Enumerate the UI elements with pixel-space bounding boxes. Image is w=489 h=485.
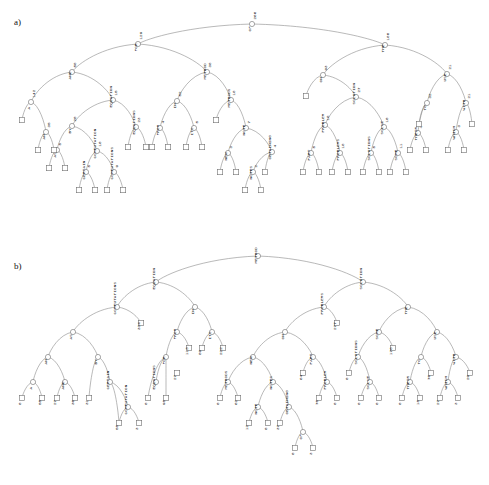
tree-node-with[interactable]: WITH (451, 353, 459, 364)
tree-leaf[interactable] (469, 121, 474, 126)
tree-leaf[interactable] (303, 93, 308, 98)
tree-node-by[interactable]: BY (93, 354, 101, 364)
tree-leaf[interactable]: 27 (435, 395, 443, 405)
tree-node-solution[interactable]: SOLUTION27 (351, 82, 362, 104)
tree-leaf[interactable]: 31 (84, 395, 92, 405)
tree-node-problems[interactable]: PROBLEMS (319, 292, 327, 314)
tree-leaf[interactable]: 27 (172, 370, 180, 380)
tree-node-which[interactable]: WHICH3 (451, 125, 462, 140)
tree-node-some[interactable]: SOME (374, 328, 382, 339)
tree-leaf[interactable]: 36 (70, 395, 78, 405)
tree-leaf[interactable] (51, 147, 56, 152)
tree-node-use[interactable]: USE (432, 329, 440, 339)
tree-node-obtaining[interactable]: OBTAINING (284, 390, 292, 415)
tree-leaf[interactable] (387, 169, 392, 174)
tree-node-which[interactable]: WHICH (443, 376, 451, 390)
tree-node-equation[interactable]: EQUATION15 (108, 85, 119, 107)
tree-node-equations[interactable]: EQUATIONS (151, 365, 159, 390)
tree-leaf[interactable] (242, 187, 247, 192)
tree-leaf[interactable] (199, 144, 204, 149)
tree-node-method[interactable]: METHOD38 (202, 62, 213, 80)
tree-node-the[interactable]: THE (403, 304, 411, 314)
tree-leaf[interactable]: 0 (374, 395, 382, 405)
tree-leaf[interactable] (217, 169, 222, 174)
tree-node-new[interactable]: NEW (248, 354, 256, 364)
tree-node-problem[interactable]: PROBLEM18 (320, 113, 331, 132)
tree-node-certain[interactable]: CERTAIN (105, 370, 113, 389)
tree-leaf[interactable]: 64 (298, 370, 306, 380)
tree-node-notes[interactable]: NOTES (268, 376, 276, 390)
tree-node-part[interactable]: PART5 (306, 146, 317, 161)
tree-leaf[interactable]: 76 (426, 370, 434, 380)
tree-node-note[interactable]: NOTE7 (241, 121, 252, 136)
tree-leaf[interactable] (403, 169, 408, 174)
tree-leaf[interactable] (183, 144, 188, 149)
tree-node-as[interactable]: AS (68, 329, 76, 339)
tree-leaf[interactable]: 0 (356, 395, 364, 405)
tree-node-on[interactable]: ON93 (318, 65, 329, 83)
tree-node-certain[interactable]: CERTAIN5 (81, 160, 92, 179)
tree-leaf[interactable] (461, 147, 466, 152)
tree-node-its[interactable]: ITS5 (189, 121, 200, 136)
tree-node-in[interactable]: IN (190, 304, 198, 314)
tree-leaf[interactable]: 70 (314, 395, 322, 405)
tree-node-methods[interactable]: METHODS18 (226, 88, 237, 107)
tree-leaf[interactable] (329, 169, 334, 174)
tree-leaf[interactable] (376, 169, 381, 174)
tree-leaf[interactable]: 3 (308, 445, 316, 455)
tree-node-note[interactable]: NOTE (253, 403, 261, 414)
tree-node-for[interactable]: FOR (161, 354, 169, 364)
tree-leaf[interactable]: 0 (17, 395, 25, 405)
tree-node-solve[interactable]: SOLVE (365, 376, 373, 390)
tree-leaf[interactable]: 62 (233, 395, 241, 405)
tree-leaf[interactable]: 0 (290, 445, 298, 455)
tree-leaf[interactable]: 98 (161, 395, 169, 405)
tree-node-obtaining[interactable]: OBTAINING4 (267, 135, 278, 160)
tree-node-solution[interactable]: SOLUTION (358, 267, 366, 289)
tree-leaf[interactable] (76, 187, 81, 192)
tree-leaf[interactable] (407, 147, 412, 152)
tree-node-part[interactable]: PART (308, 353, 316, 364)
tree-leaf[interactable]: 0 (397, 395, 405, 405)
tree-leaf[interactable] (316, 169, 321, 174)
tree-leaf[interactable] (262, 169, 267, 174)
tree-node-their[interactable]: THEIR4 (413, 126, 424, 141)
tree-leaf[interactable] (423, 147, 428, 152)
tree-node-an[interactable]: AN (43, 354, 51, 364)
tree-node-computations[interactable]: COMPUTATIONS (112, 281, 120, 314)
tree-leaf[interactable] (104, 187, 109, 192)
tree-node-an[interactable]: AN35 (41, 122, 52, 140)
tree-leaf[interactable] (143, 144, 148, 149)
tree-node-to[interactable]: TO (416, 354, 424, 364)
tree-leaf[interactable]: 37 (275, 420, 283, 430)
tree-leaf[interactable]: 277 (332, 320, 340, 330)
tree-leaf[interactable]: 12 (244, 420, 252, 430)
tree-leaf[interactable] (46, 165, 51, 170)
tree-leaf[interactable] (125, 144, 130, 149)
tree-leaf[interactable]: 0 (344, 370, 352, 380)
tree-node-equation[interactable]: EQUATION (151, 267, 159, 289)
tree-leaf[interactable]: 170 (388, 345, 396, 355)
tree-leaf[interactable] (258, 187, 263, 192)
tree-node-problem[interactable]: PROBLEM (322, 370, 330, 389)
tree-node-in[interactable]: IN52 (172, 91, 183, 109)
tree-node-solve[interactable]: SOLVE10 (379, 117, 390, 135)
tree-node-with[interactable]: WITH21 (461, 93, 472, 111)
tree-leaf[interactable]: 0 (143, 395, 151, 405)
tree-leaf[interactable]: 3 (453, 395, 461, 405)
tree-node-their[interactable]: THEIR (405, 376, 413, 390)
tree-leaf[interactable]: 113 (184, 345, 192, 355)
tree-leaf[interactable]: 55 (37, 395, 45, 405)
tree-node-for[interactable]: FOR129 (133, 31, 144, 51)
tree-node-equations[interactable]: EQUATIONS23 (131, 110, 142, 135)
tree-node-to[interactable]: TO32 (422, 93, 433, 111)
tree-leaf[interactable]: 27 (52, 395, 60, 405)
tree-node-methods[interactable]: METHODS (223, 370, 231, 389)
tree-node-and[interactable]: AND58 (67, 62, 78, 80)
tree-leaf[interactable] (213, 117, 218, 122)
tree-node-by[interactable]: BY20 (67, 116, 78, 134)
tree-node-a[interactable]: A142 (26, 89, 37, 109)
tree-leaf[interactable]: 0 (215, 395, 223, 405)
tree-node-of[interactable]: OF (298, 429, 306, 439)
tree-leaf[interactable] (345, 169, 350, 174)
